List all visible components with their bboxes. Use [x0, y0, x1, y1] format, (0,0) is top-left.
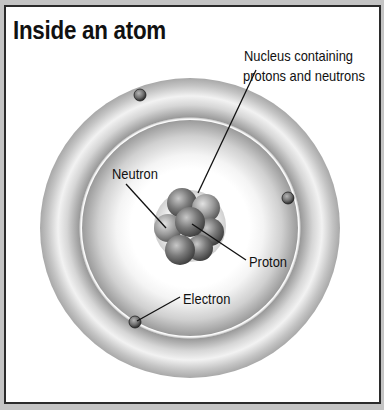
electron [282, 192, 294, 204]
nucleus-label-line2: protons and neutrons [243, 66, 365, 85]
diagram-title: Inside an atom [13, 15, 166, 46]
electron-label: Electron [183, 289, 230, 308]
nucleon [175, 207, 205, 237]
nucleus-label-line1: Nucleus containing [244, 46, 353, 65]
neutron-label: Neutron [112, 164, 158, 183]
proton-label: Proton [249, 252, 287, 271]
electron [134, 89, 146, 101]
electron [129, 316, 141, 328]
nucleon [165, 235, 195, 265]
